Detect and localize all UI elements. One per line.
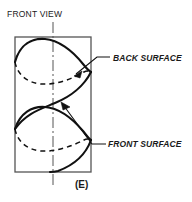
back-surface-label: BACK SURFACE xyxy=(113,54,182,63)
front-view-label: FRONT VIEW xyxy=(7,10,62,19)
figure-canvas: FRONT VIEW BACK SURFACE FRONT SURFACE (E… xyxy=(0,0,192,202)
figure-caption: (E) xyxy=(75,180,88,190)
helix-front-view-drawing xyxy=(0,0,192,202)
helix-front-curve-bottom-tail xyxy=(50,140,91,172)
front-surface-label: FRONT SURFACE xyxy=(108,140,182,149)
front-surface-leader-line xyxy=(64,106,106,144)
front-surface-arrow-head-icon xyxy=(61,102,70,110)
